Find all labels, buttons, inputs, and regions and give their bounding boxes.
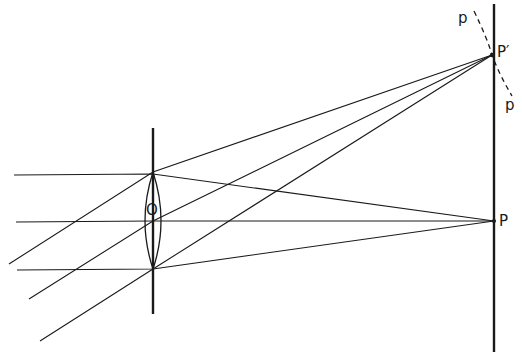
parallel-ray-top xyxy=(14,174,494,221)
oblique-ray-bottom xyxy=(40,55,492,341)
optics-diagram: O P P′ p p xyxy=(0,0,522,361)
label-lens-center: O xyxy=(146,201,158,219)
oblique-ray-top xyxy=(9,55,492,264)
focus-point-p-prime xyxy=(490,53,494,57)
parallel-ray-bottom xyxy=(17,221,494,270)
parallel-ray-center xyxy=(16,221,494,222)
parallel-ray-bundle xyxy=(14,174,494,270)
oblique-ray-bundle xyxy=(9,55,492,341)
label-curve-top: p xyxy=(458,9,468,27)
label-focus-p-prime: P′ xyxy=(497,43,510,61)
focus-point-p xyxy=(492,219,496,223)
label-curve-bottom: p xyxy=(505,96,515,114)
oblique-ray-center xyxy=(29,55,492,299)
label-focus-p: P xyxy=(499,212,508,230)
